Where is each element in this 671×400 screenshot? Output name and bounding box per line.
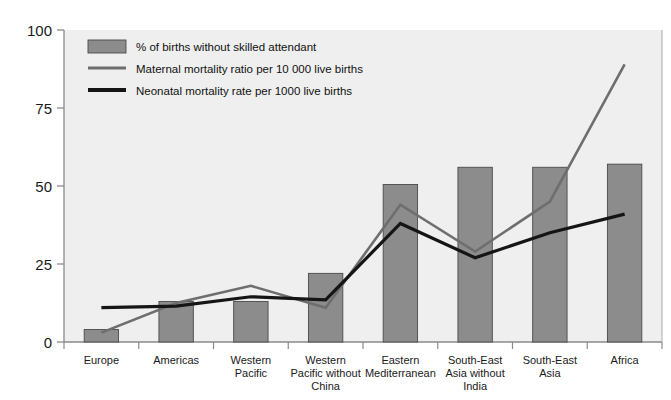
y-tick-label: 75 [35, 100, 52, 117]
bar [383, 184, 417, 342]
x-tick-label: Americas [153, 354, 199, 366]
x-tick-label: Pacific without [290, 367, 360, 379]
combo-bar-line-chart: 0255075100 EuropeAmericasWesternPacificW… [0, 0, 671, 400]
x-tick-label: India [463, 380, 488, 392]
chart-container: 0255075100 EuropeAmericasWesternPacificW… [0, 0, 671, 400]
x-tick-label: Western [230, 354, 271, 366]
x-tick-label: Mediterranean [365, 367, 436, 379]
x-axis-ticks [64, 342, 662, 349]
legend-label: % of births without skilled attendant [136, 41, 317, 53]
x-tick-label: Asia without [445, 367, 504, 379]
bar [533, 167, 567, 342]
x-tick-label: China [311, 380, 341, 392]
legend-swatch-icon [88, 40, 126, 53]
y-axis-ticks: 0255075100 [27, 22, 64, 351]
y-tick-label: 100 [27, 22, 52, 39]
plot-area-background [64, 30, 662, 342]
x-tick-label: South-East [448, 354, 502, 366]
x-axis-labels: EuropeAmericasWesternPacificWesternPacif… [84, 354, 640, 392]
x-tick-label: Western [305, 354, 346, 366]
y-tick-label: 50 [35, 178, 52, 195]
y-tick-label: 25 [35, 256, 52, 273]
x-tick-label: Eastern [381, 354, 419, 366]
y-tick-label: 0 [44, 334, 52, 351]
x-tick-label: South-East [523, 354, 577, 366]
legend-label: Neonatal mortality rate per 1000 live bi… [136, 85, 352, 97]
x-tick-label: Africa [611, 354, 640, 366]
legend-label: Maternal mortality ratio per 10 000 live… [136, 63, 363, 75]
bar [607, 164, 641, 342]
bar [234, 301, 268, 342]
x-tick-label: Asia [539, 367, 561, 379]
x-tick-label: Europe [84, 354, 119, 366]
x-tick-label: Pacific [235, 367, 268, 379]
